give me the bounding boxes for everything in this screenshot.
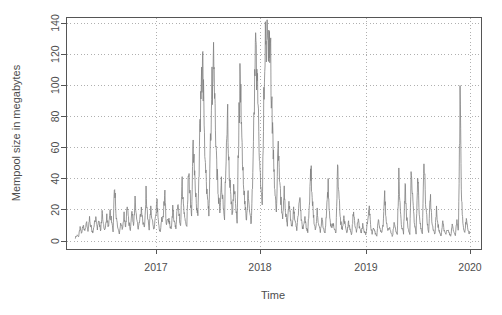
y-tick-label: 20 (49, 204, 61, 216)
y-tick-label: 100 (49, 76, 61, 94)
y-tick-label: 140 (49, 14, 61, 32)
x-tick-label: 2019 (354, 261, 378, 273)
y-tick-label: 0 (49, 238, 61, 244)
x-tick-label: 2020 (458, 261, 482, 273)
mempool-size-line-chart: 020406080100120140 2017201820192020 Memp… (0, 0, 502, 315)
y-axis-title: Mempool size in megabytes (10, 64, 22, 201)
y-tick-label: 120 (49, 45, 61, 63)
chart-figure: 020406080100120140 2017201820192020 Memp… (0, 0, 502, 315)
x-tick-label: 2018 (248, 261, 272, 273)
x-tick-label: 2017 (144, 261, 168, 273)
y-tick-label: 40 (49, 173, 61, 185)
y-tick-label: 80 (49, 110, 61, 122)
x-axis-title: Time (261, 289, 285, 301)
y-tick-label: 60 (49, 142, 61, 154)
